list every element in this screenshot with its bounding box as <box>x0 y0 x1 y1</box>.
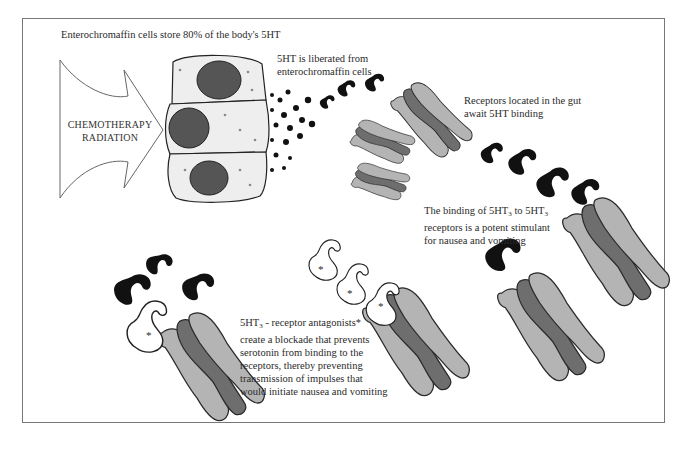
antagonist-marker: * <box>347 287 353 300</box>
arrow-label-line2: RADIATION <box>60 131 160 144</box>
released-5ht-particles <box>270 90 315 173</box>
liberated-label: 5HT is liberated from enterochromaffin c… <box>277 52 372 78</box>
antagonist-marker: * <box>318 263 324 276</box>
title-label: Enterochromaffin cells store 80% of the … <box>61 28 281 41</box>
enterochromaffin-cells <box>166 55 270 202</box>
receptors-label: Receptors located in the gut await 5HT b… <box>464 94 581 120</box>
antagonist-marker: * <box>378 300 384 313</box>
arrow-label-line1: CHEMOTHERAPY <box>60 118 160 131</box>
antagonist-marker: * <box>146 329 152 342</box>
arrow-label: CHEMOTHERAPY RADIATION <box>60 118 160 144</box>
binding-label: The binding of 5HT3 to 5HT3 receptors is… <box>424 204 550 247</box>
antagonist-label: 5HT3 - receptor antagonists* create a bl… <box>240 316 388 398</box>
